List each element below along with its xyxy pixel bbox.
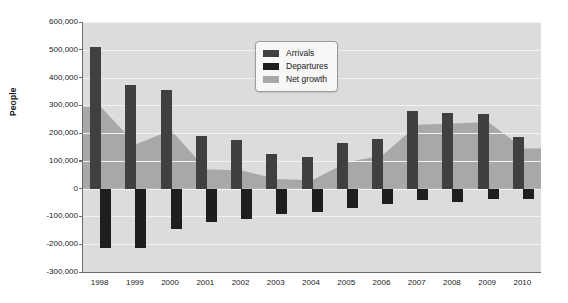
bar-arrivals-1998 — [90, 47, 101, 189]
x-axis-tick-label-2005: 2005 — [328, 278, 364, 287]
y-axis-tick-label: 200,000 — [22, 129, 78, 137]
bar-departures-2010 — [523, 189, 534, 200]
bar-departures-2002 — [241, 189, 252, 220]
y-axis-tick-mark — [79, 49, 83, 50]
bar-arrivals-2002 — [231, 140, 242, 189]
bar-arrivals-2001 — [196, 136, 207, 189]
bar-arrivals-2005 — [337, 143, 348, 189]
legend-item-net-growth[interactable]: Net growth — [263, 73, 328, 86]
y-axis-tick-mark — [79, 77, 83, 78]
gridline — [83, 244, 541, 245]
bar-departures-2005 — [347, 189, 358, 208]
y-axis-tick-label: -300,000 — [22, 268, 78, 276]
bar-arrivals-2004 — [302, 157, 313, 189]
y-axis-tick-label: 600,000 — [22, 18, 78, 26]
y-axis-tick-label: 400,000 — [22, 74, 78, 82]
chart-container: People 600,000500,000400,000300,000200,0… — [0, 0, 568, 303]
bar-departures-2007 — [417, 189, 428, 201]
x-axis-tick-label-2002: 2002 — [223, 278, 259, 287]
x-axis-tick-label-1999: 1999 — [117, 278, 153, 287]
legend-label: Net growth — [286, 73, 327, 86]
bar-arrivals-2008 — [442, 113, 453, 189]
bar-departures-2004 — [312, 189, 323, 213]
y-axis-tick-label: 500,000 — [22, 46, 78, 54]
bar-arrivals-2007 — [407, 111, 418, 189]
bar-arrivals-2010 — [513, 137, 524, 188]
bar-departures-2009 — [488, 189, 499, 200]
y-axis-tick-mark — [79, 188, 83, 189]
y-axis-tick-label: 100,000 — [22, 157, 78, 165]
y-axis-tick-mark — [79, 160, 83, 161]
x-axis-tick-label-2007: 2007 — [399, 278, 435, 287]
chart-legend: ArrivalsDeparturesNet growth — [255, 41, 338, 92]
legend-swatch-icon — [263, 63, 279, 70]
bar-departures-2000 — [171, 189, 182, 229]
y-axis-tick-label: -100,000 — [22, 212, 78, 220]
y-axis-tick-mark — [79, 244, 83, 245]
x-axis-tick-label-2006: 2006 — [363, 278, 399, 287]
y-axis-tick-mark — [79, 22, 83, 23]
y-axis-tick-mark — [79, 272, 83, 273]
bar-departures-1998 — [100, 189, 111, 249]
y-axis-tick-label: 0 — [22, 185, 78, 193]
bar-departures-2006 — [382, 189, 393, 204]
gridline — [83, 216, 541, 217]
legend-label: Arrivals — [286, 47, 314, 60]
y-axis-tick-mark — [79, 133, 83, 134]
bar-arrivals-2000 — [161, 90, 172, 189]
y-axis-tick-mark — [79, 105, 83, 106]
bar-arrivals-2006 — [372, 139, 383, 188]
y-axis-title: People — [8, 56, 18, 116]
legend-swatch-icon — [263, 76, 279, 83]
y-axis-tick-labels: 600,000500,000400,000300,000200,000100,0… — [22, 0, 78, 303]
bar-departures-2003 — [276, 189, 287, 214]
x-axis-tick-label-2004: 2004 — [293, 278, 329, 287]
x-axis-tick-label-2008: 2008 — [434, 278, 470, 287]
x-axis-tick-label-2000: 2000 — [152, 278, 188, 287]
x-axis-tick-label-2009: 2009 — [469, 278, 505, 287]
y-axis-tick-label: -200,000 — [22, 240, 78, 248]
legend-label: Departures — [286, 60, 328, 73]
bar-departures-2001 — [206, 189, 217, 222]
x-axis-tick-label-2001: 2001 — [187, 278, 223, 287]
legend-swatch-icon — [263, 50, 279, 57]
gridline — [83, 22, 541, 23]
legend-item-departures[interactable]: Departures — [263, 60, 328, 73]
y-axis-tick-label: 300,000 — [22, 101, 78, 109]
bar-arrivals-2003 — [266, 154, 277, 189]
x-axis-tick-label-2003: 2003 — [258, 278, 294, 287]
bar-departures-1999 — [135, 189, 146, 249]
x-axis-tick-label-2010: 2010 — [504, 278, 540, 287]
bar-arrivals-1999 — [125, 85, 136, 189]
legend-item-arrivals[interactable]: Arrivals — [263, 47, 328, 60]
gridline — [83, 133, 541, 134]
bar-departures-2008 — [452, 189, 463, 202]
gridline — [83, 105, 541, 106]
x-axis-tick-label-1998: 1998 — [82, 278, 118, 287]
bar-arrivals-2009 — [478, 114, 489, 188]
y-axis-tick-mark — [79, 216, 83, 217]
